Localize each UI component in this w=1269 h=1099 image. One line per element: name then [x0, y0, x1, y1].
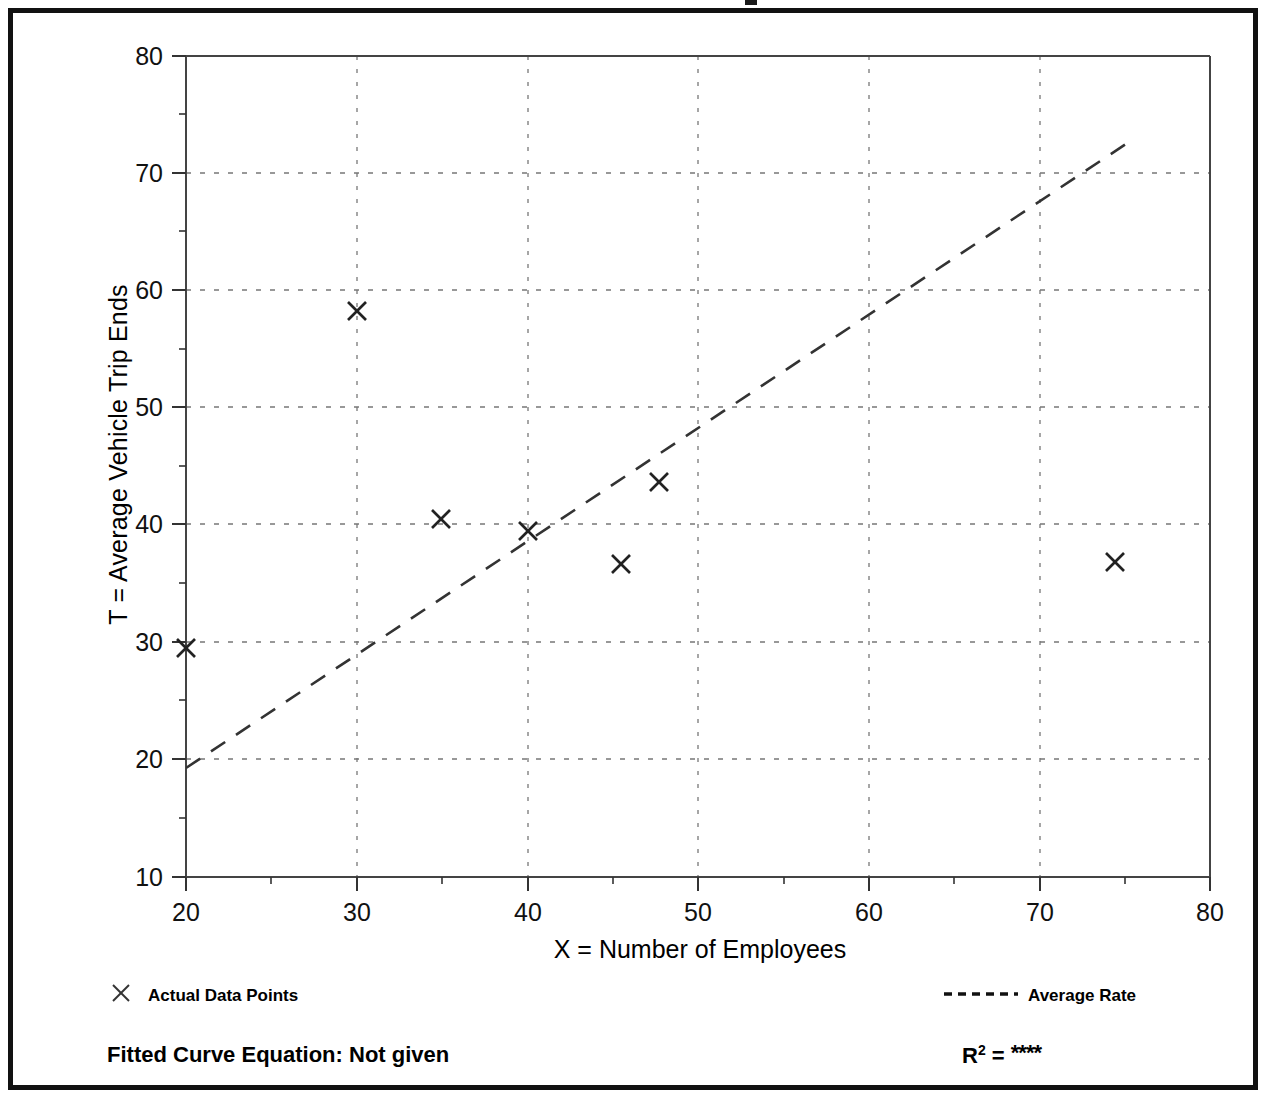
trip-generation-chart: 80 70 60 50 40 30 20 10 [0, 0, 1269, 1099]
fitted-curve-equation-text: Fitted Curve Equation: Not given [107, 1042, 449, 1068]
data-point-marker [432, 510, 450, 528]
x-tick-label: 60 [855, 898, 883, 926]
y-axis-title: T = Average Vehicle Trip Ends [104, 245, 133, 665]
data-point-marker [1106, 553, 1124, 571]
x-axis-major-ticks [186, 877, 1210, 891]
x-tick-label: 40 [514, 898, 542, 926]
x-tick-label: 50 [684, 898, 712, 926]
r-squared-value: **** [1011, 1040, 1041, 1065]
r-squared-prefix: R [962, 1043, 978, 1068]
y-tick-label: 30 [135, 628, 163, 656]
data-point-marker [612, 555, 630, 573]
legend-average-rate-label: Average Rate [1028, 986, 1136, 1006]
y-tick-label: 80 [135, 42, 163, 70]
y-tick-label: 60 [135, 276, 163, 304]
y-tick-label: 10 [135, 863, 163, 891]
grid-vertical [357, 56, 1040, 877]
x-tick-label: 80 [1196, 898, 1224, 926]
y-tick-label: 50 [135, 393, 163, 421]
average-rate-trend-line [186, 144, 1126, 768]
x-axis-tick-labels: 20 30 40 50 60 70 80 [172, 898, 1224, 926]
x-tick-label: 20 [172, 898, 200, 926]
y-tick-label: 20 [135, 745, 163, 773]
axes-frame [186, 56, 1210, 877]
grid-horizontal [186, 173, 1210, 759]
data-points-layer [177, 302, 1124, 657]
figure-page: 80 70 60 50 40 30 20 10 [0, 0, 1269, 1099]
y-tick-label: 40 [135, 510, 163, 538]
data-point-marker [650, 473, 668, 491]
y-axis-tick-labels: 80 70 60 50 40 30 20 10 [135, 42, 163, 891]
y-tick-label: 70 [135, 159, 163, 187]
r-squared-equals: = [986, 1043, 1011, 1068]
legend-actual-data-points-label: Actual Data Points [148, 986, 298, 1006]
r-squared-annotation: R2 = **** [962, 1042, 1041, 1069]
r-squared-exponent: 2 [978, 1042, 986, 1058]
y-axis-minor-ticks [179, 114, 186, 818]
dashed-line-icon [944, 992, 1018, 996]
x-tick-label: 30 [343, 898, 371, 926]
x-axis-title: X = Number of Employees [180, 935, 1220, 964]
x-tick-label: 70 [1026, 898, 1054, 926]
x-marker-icon [110, 982, 132, 1004]
